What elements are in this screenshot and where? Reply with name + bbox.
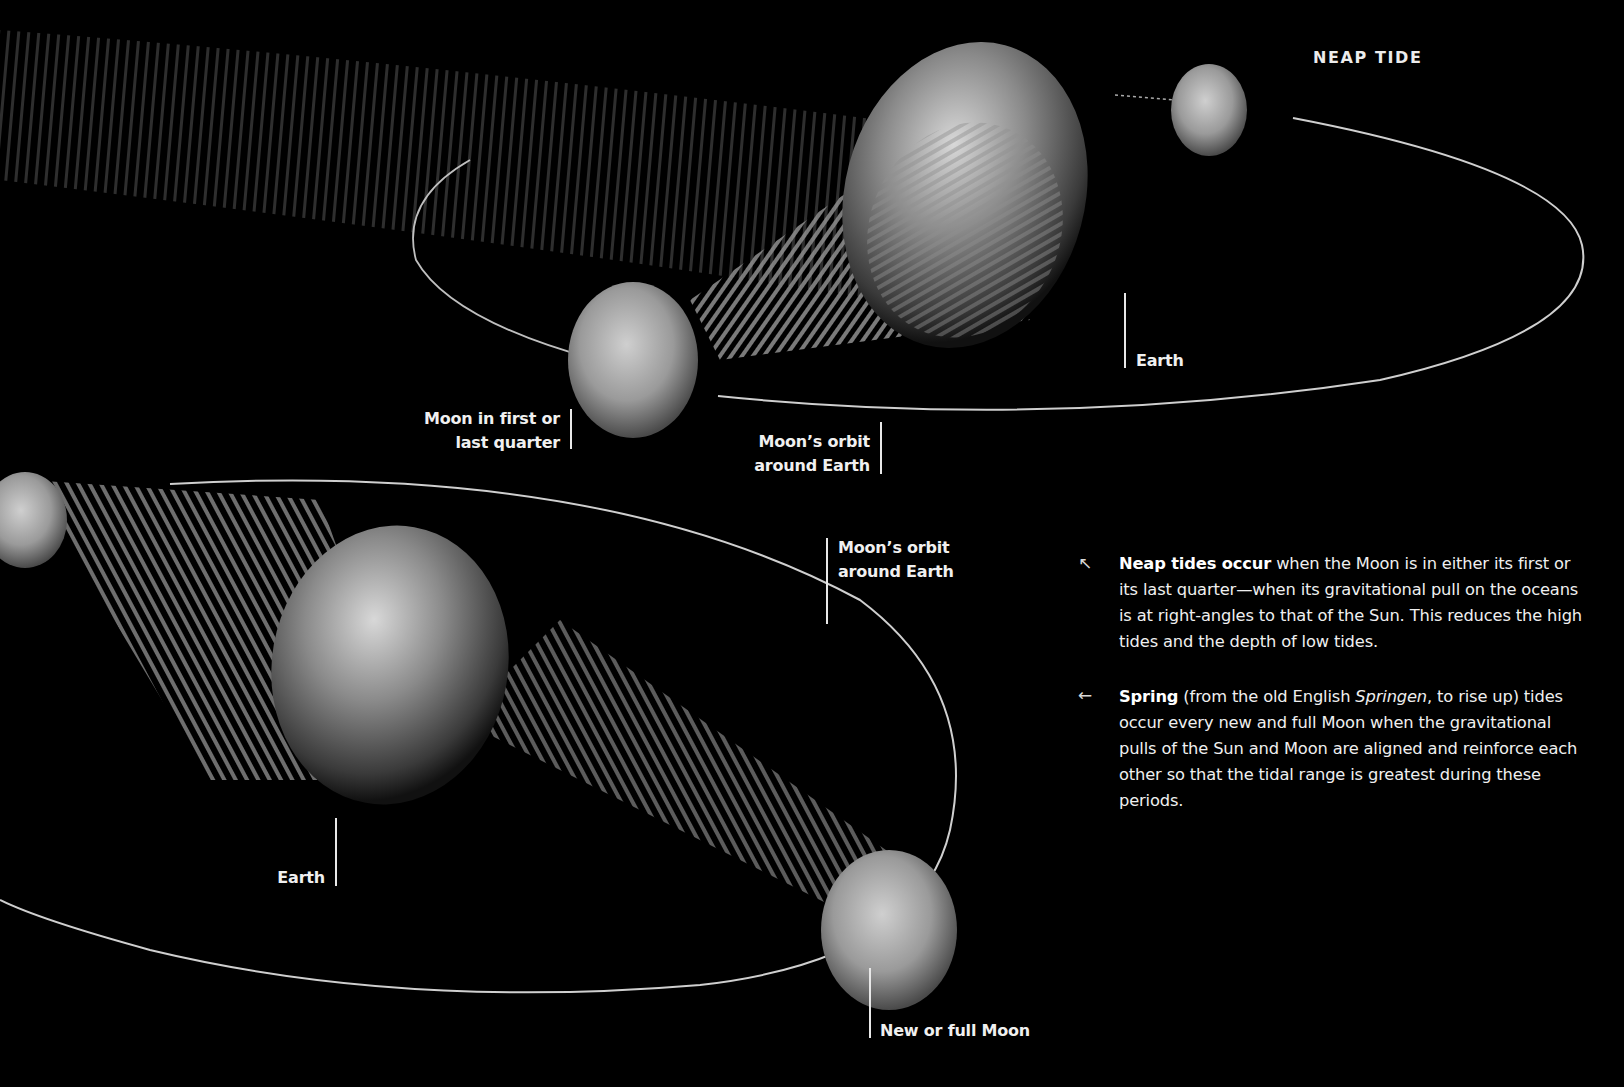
new-full-moon-label: New or full Moon bbox=[880, 1019, 1030, 1043]
orbit-bottom-label: Moon’s orbit around Earth bbox=[838, 536, 954, 583]
moon-quarter-label: Moon in first or last quarter bbox=[380, 407, 560, 454]
neap-heading: Neap tides occur bbox=[1119, 554, 1271, 573]
neap-description: Neap tides occur when the Moon is in eit… bbox=[1119, 551, 1589, 655]
new-full-moon-leader bbox=[869, 968, 871, 1038]
moon-new-full-icon bbox=[821, 850, 957, 1010]
earth-bottom-label: Earth bbox=[225, 866, 325, 890]
moon-quarter-leader bbox=[570, 409, 572, 449]
earth-top-leader bbox=[1124, 293, 1126, 368]
earth-top-label: Earth bbox=[1136, 349, 1184, 373]
neap-tide-title: NEAP TIDE bbox=[1313, 48, 1422, 67]
arrow-left-icon: ← bbox=[1078, 685, 1092, 705]
moon-quarter-icon bbox=[568, 282, 698, 438]
orbit-top-leader bbox=[880, 422, 882, 474]
arrow-up-left-icon: ↖ bbox=[1078, 553, 1092, 573]
orbit-bottom-leader bbox=[826, 538, 828, 624]
spring-heading: Spring bbox=[1119, 687, 1178, 706]
sun-rays-top bbox=[0, 30, 880, 300]
orbit-top-label: Moon’s orbit around Earth bbox=[690, 430, 870, 477]
spring-description: Spring (from the old English Springen, t… bbox=[1119, 684, 1589, 814]
earth-bottom-leader bbox=[335, 818, 337, 886]
moon-top-right-icon bbox=[1171, 64, 1247, 156]
tide-illustration bbox=[0, 0, 1624, 1087]
